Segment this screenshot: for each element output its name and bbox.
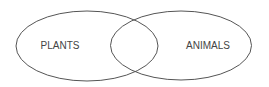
animals-label: ANIMALS: [186, 40, 230, 51]
plants-label: PLANTS: [41, 40, 80, 51]
venn-diagram: PLANTS ANIMALS: [0, 0, 269, 87]
plants-circle: [16, 11, 158, 81]
animals-circle: [111, 11, 252, 80]
